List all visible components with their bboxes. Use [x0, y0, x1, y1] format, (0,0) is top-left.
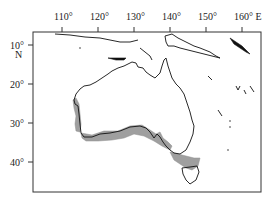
- timor-islands: [108, 58, 126, 60]
- shaded-region-west-coast: [73, 98, 81, 132]
- y-axis-hemisphere-label: N: [15, 49, 22, 60]
- indonesia-coastline: [55, 34, 138, 42]
- sulawesi-coastline: [140, 48, 152, 60]
- x-tick-label: 120°: [90, 11, 109, 22]
- small-island: [229, 126, 231, 128]
- small-island: [229, 120, 231, 122]
- x-tick-label: 110°: [54, 11, 73, 22]
- x-tick-label: 160° E: [234, 11, 262, 22]
- y-tick-label: 30°: [10, 118, 24, 129]
- solomon-islands: [230, 38, 250, 54]
- map-frame: [33, 32, 261, 192]
- y-tick-label: 40°: [10, 157, 24, 168]
- new-caledonia: [208, 76, 222, 116]
- x-tick-label: 130°: [126, 11, 145, 22]
- y-tick-label: 20°: [10, 79, 24, 90]
- small-island: [79, 47, 81, 49]
- small-island: [227, 149, 229, 151]
- x-tick-label: 140°: [162, 11, 181, 22]
- map-figure: 110°120°130°140°150°160° E 10°20°30°40° …: [0, 0, 272, 206]
- vanuatu-islands: [236, 86, 254, 94]
- new-guinea-coastline: [165, 34, 220, 58]
- x-tick-label: 150°: [198, 11, 217, 22]
- x-axis: 110°120°130°140°150°160° E: [54, 11, 262, 32]
